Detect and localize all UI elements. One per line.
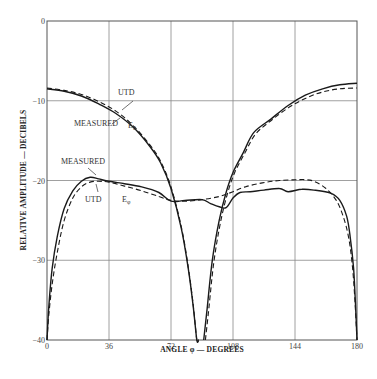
label-measured-etheta: MEASURED bbox=[74, 119, 118, 128]
series-e-utd bbox=[47, 88, 199, 342]
radiation-pattern-chart: 0−10−20−30−40 03672108144180 UTD MEASURE… bbox=[0, 0, 377, 379]
y-axis-label: RELATIVE AMPLITUDE — DECIBELS bbox=[19, 110, 28, 251]
label-measured-ephi: MEASURED bbox=[61, 157, 105, 166]
x-axis-label: ANGLE φ — DEGREES bbox=[160, 345, 244, 354]
y-tick-label: −20 bbox=[32, 177, 45, 186]
label-utd-ephi: UTD bbox=[85, 195, 102, 204]
label-utd-etheta: UTD bbox=[118, 88, 135, 97]
label-e-phi: Eφ bbox=[122, 195, 131, 205]
x-tick-label: 180 bbox=[351, 342, 363, 351]
y-axis-ticks: 0−10−20−30−40 bbox=[32, 17, 45, 345]
y-tick-label: 0 bbox=[41, 17, 45, 26]
series-e-utd-right-lobe- bbox=[205, 88, 357, 340]
x-tick-label: 36 bbox=[105, 342, 113, 351]
label-e-theta: Eθ bbox=[128, 121, 136, 131]
y-tick-label: −10 bbox=[32, 97, 45, 106]
x-tick-label: 144 bbox=[289, 342, 301, 351]
y-tick-label: −40 bbox=[32, 336, 45, 345]
series-e-measured-right-lobe- bbox=[204, 83, 357, 340]
y-tick-label: −30 bbox=[32, 256, 45, 265]
x-tick-label: 0 bbox=[45, 342, 49, 351]
series-e-measured bbox=[47, 89, 199, 343]
